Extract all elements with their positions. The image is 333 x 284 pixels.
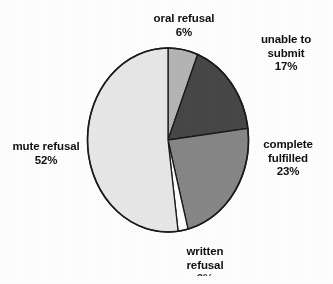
pie-label-oral-refusal-value: 6% [134, 26, 234, 40]
pie-label-oral-refusal-name: oral refusal [134, 12, 234, 26]
pie-chart-screenshot: oral refusal 6% unable to submit 17% com… [0, 0, 333, 284]
pie-label-complete-fulfilled-name2: fulfilled [246, 152, 330, 166]
pie-label-mute-refusal-value: 52% [2, 154, 90, 168]
pie-label-oral-refusal: oral refusal 6% [134, 12, 234, 39]
pie-label-unable-to-submit-name: unable to [242, 33, 330, 47]
pie-label-unable-to-submit-value: 17% [242, 60, 330, 74]
pie-label-written-refusal: written refusal 2% [160, 245, 250, 276]
pie-label-unable-to-submit-name2: submit [242, 47, 330, 61]
pie-label-mute-refusal-name: mute refusal [2, 140, 90, 154]
pie-slice-group [87, 48, 248, 232]
pie-label-written-refusal-value: 2% [160, 272, 250, 276]
pie-label-written-refusal-name2: refusal [160, 259, 250, 273]
pie-label-unable-to-submit: unable to submit 17% [242, 33, 330, 74]
pie-label-complete-fulfilled-value: 23% [246, 165, 330, 179]
pie-label-complete-fulfilled-name: complete [246, 138, 330, 152]
pie-label-written-refusal-name: written [160, 245, 250, 259]
pie-label-complete-fulfilled: complete fulfilled 23% [246, 138, 330, 179]
pie-slice-mute-refusal[interactable] [87, 48, 178, 232]
pie-label-mute-refusal: mute refusal 52% [2, 140, 90, 167]
